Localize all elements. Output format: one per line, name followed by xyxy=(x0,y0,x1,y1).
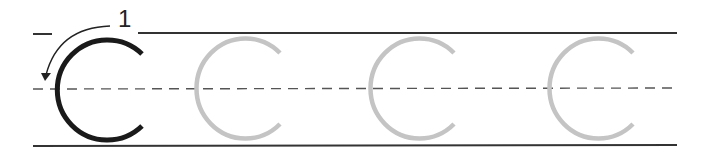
bottom-guide-line xyxy=(33,145,677,146)
model-letter-c xyxy=(57,40,142,140)
dashed-midline xyxy=(33,88,677,89)
handwriting-practice-sheet: 1 xyxy=(0,0,710,166)
practice-lines xyxy=(0,0,710,166)
stroke-number-label: 1 xyxy=(118,6,131,32)
